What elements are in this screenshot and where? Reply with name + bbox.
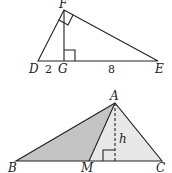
label-ge-length: 8 [108, 63, 115, 76]
label-d: D [28, 62, 39, 76]
geometry-diagram: F D 2 G 8 E A h B M C [0, 0, 172, 173]
label-a: A [109, 89, 119, 103]
triangle-dfe [38, 10, 158, 61]
label-b: B [7, 161, 17, 173]
figure-2-triangle-abc: A h B M C [7, 89, 165, 173]
label-f: F [58, 0, 68, 11]
label-c: C [156, 161, 165, 173]
right-angle-mark-g [64, 50, 75, 61]
figure-1-triangle-dfe: F D 2 G 8 E [28, 0, 164, 76]
label-h: h [119, 132, 127, 146]
label-e: E [154, 62, 164, 76]
label-g: G [58, 62, 68, 76]
label-m: M [80, 161, 94, 173]
label-dg-length: 2 [45, 63, 52, 76]
